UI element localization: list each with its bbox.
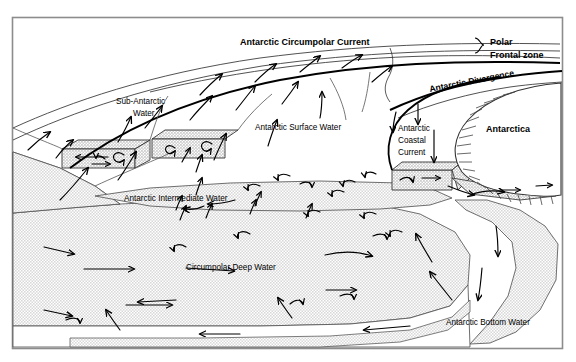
label-antarctic-bottom-water: Antarctic Bottom Water xyxy=(446,318,530,327)
label-antarctica: Antarctica xyxy=(486,124,531,134)
label-polar: Polar xyxy=(490,37,513,47)
circulation-diagram-figure: Antarctic Circumpolar Current Polar Fron… xyxy=(0,0,576,362)
label-antarctic-intermediate-water: Antarctic Intermediate Water xyxy=(124,194,228,203)
label-antarctic-surface-water: Antarctic Surface Water xyxy=(255,123,341,132)
label-frontal-zone: Frontal zone xyxy=(490,50,544,60)
coastal-block-face xyxy=(392,170,452,190)
mid-surface-block-face xyxy=(152,139,225,158)
coastal-block-top xyxy=(392,162,462,170)
label-antarctic-coastal-current-line3: Current xyxy=(398,148,426,157)
label-sub-antarctic-water-line1: Sub-Antarctic xyxy=(116,97,165,106)
label-circumpolar-deep-water: Circumpolar Deep Water xyxy=(186,263,276,272)
label-sub-antarctic-water-line2: Water xyxy=(133,109,155,118)
mid-surface-block-top xyxy=(152,130,238,139)
circumpolar-deep-water-body xyxy=(13,198,470,326)
label-antarctic-circumpolar-current: Antarctic Circumpolar Current xyxy=(240,37,370,47)
label-antarctic-coastal-current-line1: Antarctic xyxy=(398,124,430,133)
label-antarctic-coastal-current-line2: Coastal xyxy=(398,136,426,145)
